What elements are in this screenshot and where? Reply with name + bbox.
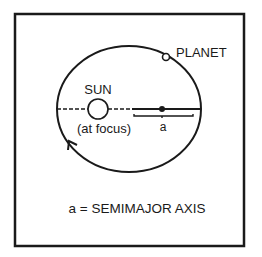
- ellipse-center-dot: [159, 106, 165, 112]
- diagram-canvas: PLANET SUN (at focus) a a = SEMIMAJOR AX…: [0, 0, 262, 257]
- sun-label: SUN: [84, 82, 111, 97]
- caption: a = SEMIMAJOR AXIS: [69, 201, 206, 216]
- planet-label: PLANET: [176, 45, 227, 60]
- focus-note-label: (at focus): [77, 121, 131, 136]
- orbit-diagram: PLANET SUN (at focus) a a = SEMIMAJOR AX…: [0, 0, 262, 257]
- planet-icon: [163, 54, 170, 61]
- semimajor-symbol-label: a: [160, 120, 167, 134]
- semimajor-bracket: [134, 114, 193, 118]
- sun-icon: [88, 99, 108, 119]
